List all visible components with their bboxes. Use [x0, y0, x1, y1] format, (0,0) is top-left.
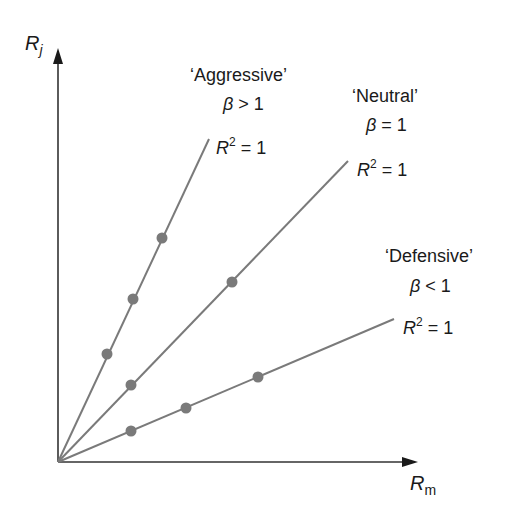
- y-axis-arrow-icon: [53, 48, 63, 64]
- neutral-point: [126, 380, 137, 391]
- aggressive-point: [102, 349, 113, 360]
- y-axis-label: Rj: [25, 32, 43, 58]
- x-axis-label: Rm: [410, 472, 436, 498]
- defensive-line: [58, 319, 394, 462]
- aggressive-beta: β > 1: [222, 94, 264, 114]
- defensive-point: [181, 403, 192, 414]
- defensive-series: ‘Defensive’ β < 1 R2 = 1: [58, 246, 473, 462]
- defensive-title: ‘Defensive’: [385, 246, 473, 266]
- aggressive-point: [128, 294, 139, 305]
- defensive-point: [126, 426, 137, 437]
- neutral-line: [58, 161, 348, 462]
- aggressive-series: ‘Aggressive’ β > 1 R2 = 1: [58, 65, 287, 462]
- aggressive-title: ‘Aggressive’: [190, 65, 287, 85]
- aggressive-r-squared: R2 = 1: [216, 135, 266, 158]
- neutral-beta: β = 1: [365, 115, 407, 135]
- aggressive-point: [157, 233, 168, 244]
- neutral-title: ‘Neutral’: [352, 86, 418, 106]
- defensive-point: [253, 372, 264, 383]
- beta-diagram: Rj Rm ‘Aggressive’ β > 1 R2 = 1 ‘Neutral…: [0, 0, 512, 518]
- neutral-r-squared: R2 = 1: [357, 157, 407, 180]
- neutral-point: [227, 277, 238, 288]
- defensive-beta: β < 1: [409, 276, 451, 296]
- x-axis-arrow-icon: [402, 457, 418, 467]
- defensive-r-squared: R2 = 1: [403, 315, 453, 338]
